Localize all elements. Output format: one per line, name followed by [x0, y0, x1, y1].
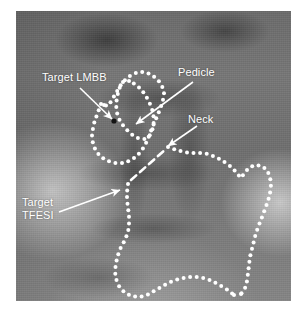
annotation-arrows [59, 82, 197, 212]
label-pedicle: Pedicle [178, 66, 215, 79]
arrow-target-tfesi [59, 190, 120, 212]
arrow-target-lmbb [80, 88, 112, 119]
target-markers [111, 118, 116, 123]
label-target-tfesi: Target TFESI [22, 196, 54, 221]
neck-dashed-line [131, 149, 166, 180]
anatomy-outlines [90, 70, 273, 299]
inferior-outline [113, 182, 236, 299]
fluoroscopy-figure: Target LMBBPedicleNeckTarget TFESI [0, 0, 308, 316]
annotation-overlay [0, 0, 308, 316]
label-target-lmbb: Target LMBB [42, 71, 107, 84]
lmbb-target-point [111, 118, 116, 123]
arrow-neck [168, 126, 197, 146]
pedicle-outline [114, 79, 155, 141]
arrow-pedicle [136, 82, 193, 124]
body-lateral-outline [166, 145, 273, 296]
label-neck: Neck [188, 113, 213, 126]
